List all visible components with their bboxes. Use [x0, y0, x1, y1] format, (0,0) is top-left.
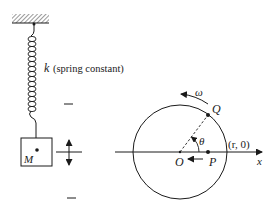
- spring-hook-bottom: [30, 111, 37, 138]
- point-P-label: P: [208, 155, 217, 169]
- diagram-canvas: k (spring constant) M x Q θ ω O P (r, 0): [0, 0, 278, 215]
- spring-hook-top: [31, 24, 34, 36]
- angle-arc: [192, 137, 200, 152]
- spring-constant-label: (spring constant): [53, 63, 124, 75]
- point-P: [206, 150, 210, 154]
- point-O: [179, 151, 181, 153]
- intercept-label: (r, 0): [228, 138, 250, 151]
- point-Q-label: Q: [212, 102, 221, 116]
- x-axis-label: x: [256, 155, 262, 167]
- point-Q: [206, 113, 210, 117]
- ceiling-support: [12, 14, 49, 23]
- mass-label: M: [23, 153, 34, 165]
- reference-circle-diagram: x Q θ ω O P (r, 0): [115, 86, 262, 199]
- spring-mass-system: k (spring constant) M: [12, 14, 124, 198]
- spring-coil: [28, 36, 36, 111]
- angle-theta-label: θ: [199, 135, 205, 147]
- omega-label: ω: [195, 86, 203, 98]
- mass-center-dot: [35, 148, 39, 152]
- origin-label: O: [175, 155, 184, 169]
- spring-constant-symbol: k: [44, 61, 50, 75]
